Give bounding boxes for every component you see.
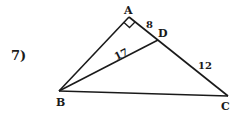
- segment-ac: [129, 17, 228, 96]
- vertex-label-c: C: [221, 100, 230, 113]
- vertex-label-a: A: [123, 4, 133, 17]
- problem-number: 7): [11, 48, 26, 63]
- length-ad: 8: [146, 19, 153, 30]
- length-bd: 17: [112, 46, 129, 62]
- right-angle-marker: [124, 22, 135, 28]
- segment-bc: [59, 91, 228, 96]
- segment-bd: [59, 40, 158, 91]
- triangle-figure: 7) A D B C 8 17 12: [0, 0, 243, 114]
- vertex-label-b: B: [56, 96, 65, 109]
- vertex-label-d: D: [158, 27, 168, 40]
- length-dc: 12: [198, 60, 212, 71]
